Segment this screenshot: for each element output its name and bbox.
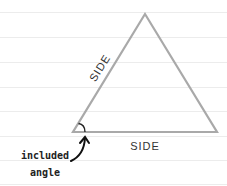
- left-side-label: SIDE: [87, 52, 113, 84]
- included-angle-diagram: SIDE SIDE included angle: [0, 0, 227, 186]
- bottom-side-label: SIDE: [130, 140, 160, 152]
- curved-arrow-icon: [71, 137, 89, 161]
- annotation-angle: angle: [30, 167, 60, 178]
- annotation-included: included: [21, 150, 69, 161]
- angle-arc-icon: [79, 124, 86, 133]
- diagram-canvas: SIDE SIDE included angle: [0, 0, 227, 186]
